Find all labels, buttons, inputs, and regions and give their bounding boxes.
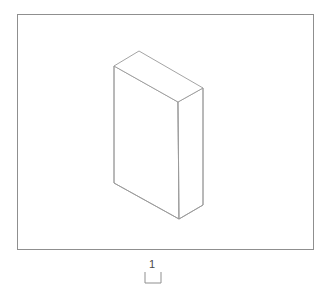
technical-drawing-svg: 1 (0, 0, 332, 284)
drawing-canvas: 1 (0, 0, 332, 284)
slab-right-face (178, 88, 203, 219)
scale-marker-label: 1 (149, 258, 155, 270)
